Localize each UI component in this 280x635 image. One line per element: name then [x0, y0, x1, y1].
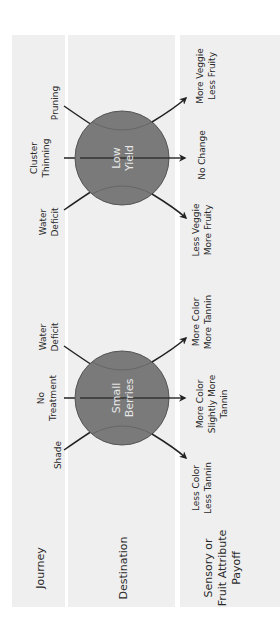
row-label-payoff: Sensory or Fruit Attribute Payoff: [202, 530, 243, 607]
svg-text:More Veggie: More Veggie: [195, 48, 205, 104]
svg-text:Water: Water: [38, 208, 48, 235]
svg-text:Deficit: Deficit: [50, 207, 60, 237]
row-label-journey: Journey: [34, 547, 47, 590]
svg-text:Water: Water: [38, 323, 48, 350]
svg-text:Less Tannin: Less Tannin: [203, 462, 213, 514]
svg-text:Payoff: Payoff: [230, 551, 243, 585]
svg-text:More Tannin: More Tannin: [203, 295, 213, 349]
journey-arrow-water-deficit-2: [64, 190, 94, 210]
svg-text:Less Color: Less Color: [191, 465, 201, 511]
group-low-yield: Low Yield Water Deficit Cluster Thinning…: [29, 48, 217, 257]
journey-arrow-shade: [64, 430, 94, 450]
svg-text:No Change: No Change: [197, 130, 207, 180]
svg-text:No: No: [36, 391, 46, 404]
payoff-arrow-right-2: [152, 98, 186, 122]
svg-text:More Fruity: More Fruity: [203, 204, 213, 255]
svg-text:Slightly More: Slightly More: [207, 374, 217, 433]
svg-text:Deficit: Deficit: [50, 322, 60, 352]
svg-text:More Color: More Color: [191, 297, 201, 346]
svg-text:More Color: More Color: [195, 379, 205, 428]
svg-text:Less Fruity: Less Fruity: [207, 51, 217, 100]
svg-text:Less Veggie: Less Veggie: [191, 203, 201, 257]
svg-text:Journey: Journey: [34, 547, 47, 590]
svg-text:Tannin: Tannin: [219, 389, 229, 419]
row-label-destination: Destination: [117, 536, 130, 599]
svg-text:Thinning: Thinning: [41, 138, 51, 178]
svg-text:Small: Small: [110, 383, 123, 414]
payoff-arrow-right: [152, 338, 186, 362]
svg-text:Sensory or: Sensory or: [202, 538, 215, 597]
svg-text:Shade: Shade: [53, 440, 63, 469]
svg-text:Yield: Yield: [123, 145, 136, 172]
svg-text:Destination: Destination: [117, 536, 130, 599]
svg-text:Cluster: Cluster: [29, 142, 39, 174]
svg-text:Low: Low: [110, 147, 123, 169]
svg-text:Treatment: Treatment: [48, 375, 58, 422]
payoff-arrow-left: [152, 434, 186, 458]
svg-text:Berries: Berries: [123, 378, 136, 417]
diagram: Journey Destination Sensory or Fruit Att…: [0, 0, 280, 635]
payoff-arrow-left-2: [152, 194, 186, 218]
svg-text:Pruning: Pruning: [50, 86, 60, 120]
journey-arrow-water-deficit: [64, 346, 94, 366]
svg-text:Fruit Attribute: Fruit Attribute: [216, 530, 229, 607]
group-small-berries: Small Berries Shade No Treatment Water D…: [36, 295, 229, 514]
journey-arrow-pruning: [64, 106, 94, 126]
